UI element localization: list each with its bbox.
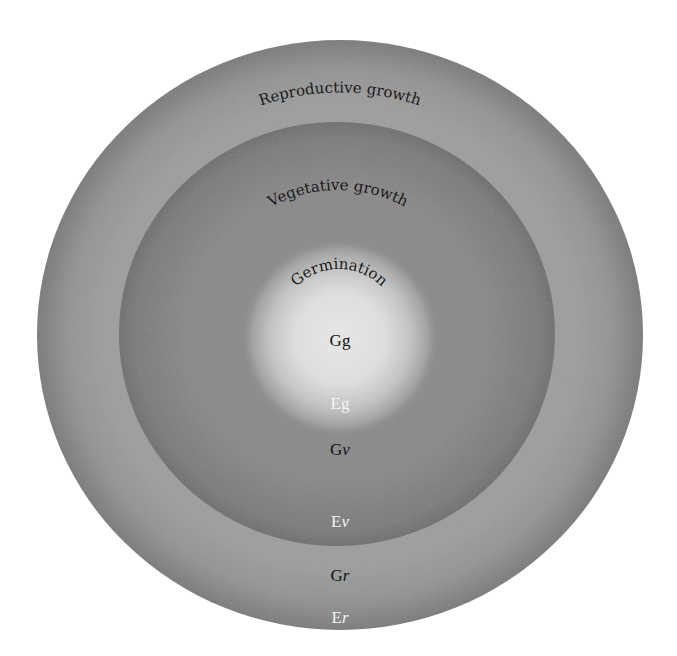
code-eg-suffix: g [341, 394, 350, 413]
code-ev: Eν [331, 512, 349, 531]
code-ev-prefix: E [331, 512, 341, 531]
code-gv-suffix: ν [342, 440, 350, 459]
code-gv: Gν [330, 440, 350, 459]
code-eg-prefix: E [331, 394, 341, 413]
code-gg-suffix: g [342, 331, 351, 350]
code-ev-suffix: ν [341, 512, 349, 531]
code-gr: Gr [331, 566, 350, 585]
code-gv-prefix: G [330, 440, 342, 459]
code-er: Er [331, 608, 348, 627]
code-er-suffix: r [342, 608, 349, 627]
code-gr-suffix: r [343, 566, 350, 585]
code-gr-prefix: G [331, 566, 343, 585]
code-gg-prefix: G [330, 331, 342, 350]
growth-stage-diagram: Reproductive growth Vegetative growth Ge… [0, 0, 677, 656]
code-er-prefix: E [331, 608, 341, 627]
code-eg: Eg [331, 394, 350, 413]
code-gg: Gg [330, 331, 351, 350]
